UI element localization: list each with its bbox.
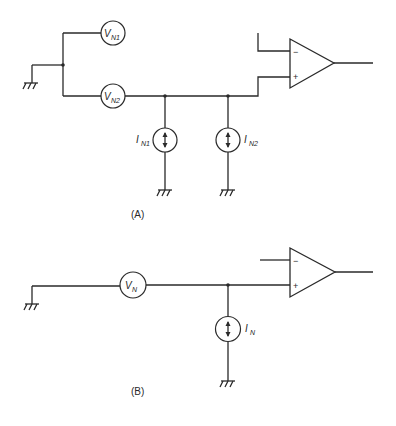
current-noise-source-in1: I N1: [136, 128, 177, 152]
svg-text:I: I: [244, 134, 247, 145]
ground-symbol: [220, 190, 235, 196]
op-amp-a: − +: [290, 39, 373, 88]
ground-symbol: [23, 65, 38, 89]
voltage-noise-source-vn: V N: [120, 272, 146, 298]
svg-text:N2: N2: [111, 97, 120, 104]
svg-text:N1: N1: [141, 140, 150, 147]
svg-text:+: +: [293, 281, 298, 291]
svg-text:N: N: [250, 329, 256, 336]
voltage-noise-source-vn2: V N2: [101, 84, 125, 108]
voltage-noise-source-vn1: V N1: [101, 21, 125, 45]
ground-symbol: [157, 190, 172, 196]
ground-symbol: [24, 286, 39, 310]
wire: [125, 77, 290, 96]
svg-text:−: −: [293, 47, 298, 57]
svg-text:−: −: [293, 256, 298, 266]
svg-text:I: I: [136, 134, 139, 145]
wire: [258, 33, 290, 51]
diagram-b: V N I N − + (B): [24, 248, 373, 397]
circuit-diagram: V N1 V N2 I N1: [0, 0, 396, 426]
ground-symbol: [220, 381, 235, 387]
svg-text:I: I: [245, 323, 248, 334]
current-noise-source-in2: I N2: [216, 128, 258, 152]
svg-text:N1: N1: [111, 34, 120, 41]
diagram-a: V N1 V N2 I N1: [23, 21, 373, 220]
op-amp-b: − +: [260, 248, 373, 297]
svg-text:N2: N2: [249, 140, 258, 147]
current-noise-source-in: I N: [216, 317, 257, 342]
svg-text:+: +: [293, 72, 298, 82]
caption-b: (B): [131, 386, 144, 397]
caption-a: (A): [131, 209, 144, 220]
